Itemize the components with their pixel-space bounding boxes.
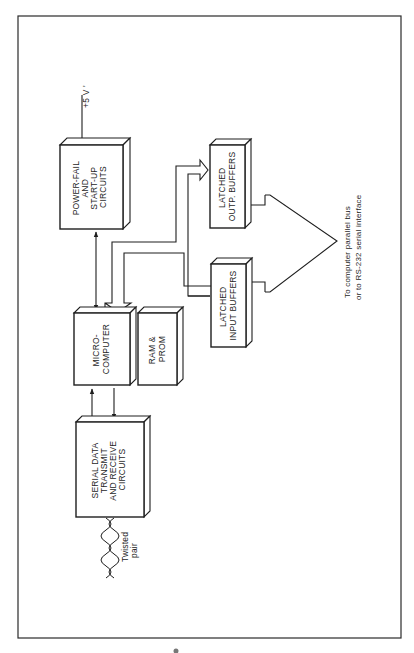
block-latched-output: LATCHED OUTP. BUFFERS [210, 139, 251, 228]
destination-label-2: or to RS-232 serial interface [354, 194, 363, 300]
svg-text:POWER-FAIL AND STA: POWER-FAIL AND START-UP CIRCUITS [71, 159, 108, 216]
svg-text:RAM & PROM: RAM & PROM [147, 334, 167, 364]
block-serial: SERIAL DATA TRANSMIT AND RECEIVE CIRCUIT… [76, 416, 150, 517]
twisted-pair-label-2: pair [129, 543, 139, 558]
ram-prom-line1: RAM & [147, 336, 157, 364]
latched-input-line2: INPUT BUFFERS [228, 270, 238, 340]
external-connector [265, 195, 337, 292]
twisted-pair-cable [101, 518, 119, 578]
block-ram-prom: RAM & PROM [138, 307, 183, 385]
block-latched-input: LATCHED INPUT BUFFERS [211, 258, 252, 347]
ram-prom-line2: PROM [157, 336, 167, 362]
micro-line2: COMPUTER [101, 324, 111, 374]
latched-input-line1: LATCHED [218, 287, 228, 327]
latched-output-line1: LATCHED [217, 168, 227, 208]
block-microcomputer: MICRO- COMPUTER [74, 307, 136, 385]
registration-mark [174, 649, 179, 653]
latched-output-line2: OUTP. BUFFERS [227, 152, 237, 222]
micro-line1: MICRO- [91, 334, 101, 366]
power-fail-line4: CIRCUITS [98, 166, 108, 208]
svg-text:To computer parallel bus o: To computer parallel bus or to RS-232 se… [343, 194, 363, 300]
power-input-label: +5 V ' [81, 85, 91, 108]
block-power-fail: POWER-FAIL AND START-UP CIRCUITS [60, 138, 130, 229]
block-diagram: POWER-FAIL AND START-UP CIRCUITS +5 V ' … [0, 0, 414, 653]
serial-line4: CIRCUITS [117, 449, 127, 491]
svg-text:Twisted pair: Twisted pair [120, 529, 139, 562]
destination-label-1: To computer parallel bus [343, 206, 352, 298]
